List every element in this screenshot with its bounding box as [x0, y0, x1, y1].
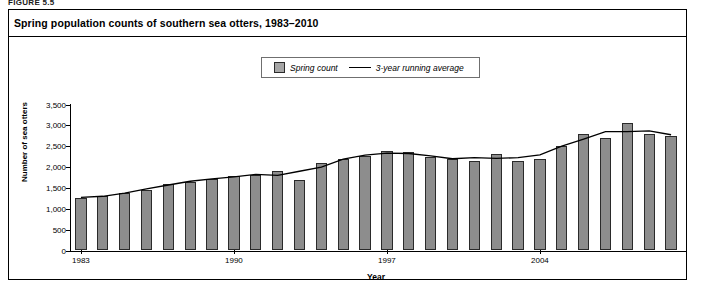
- running-average-line: [0, 0, 701, 289]
- plot-area: Number of sea otters Year 05001,0001,500…: [0, 0, 701, 289]
